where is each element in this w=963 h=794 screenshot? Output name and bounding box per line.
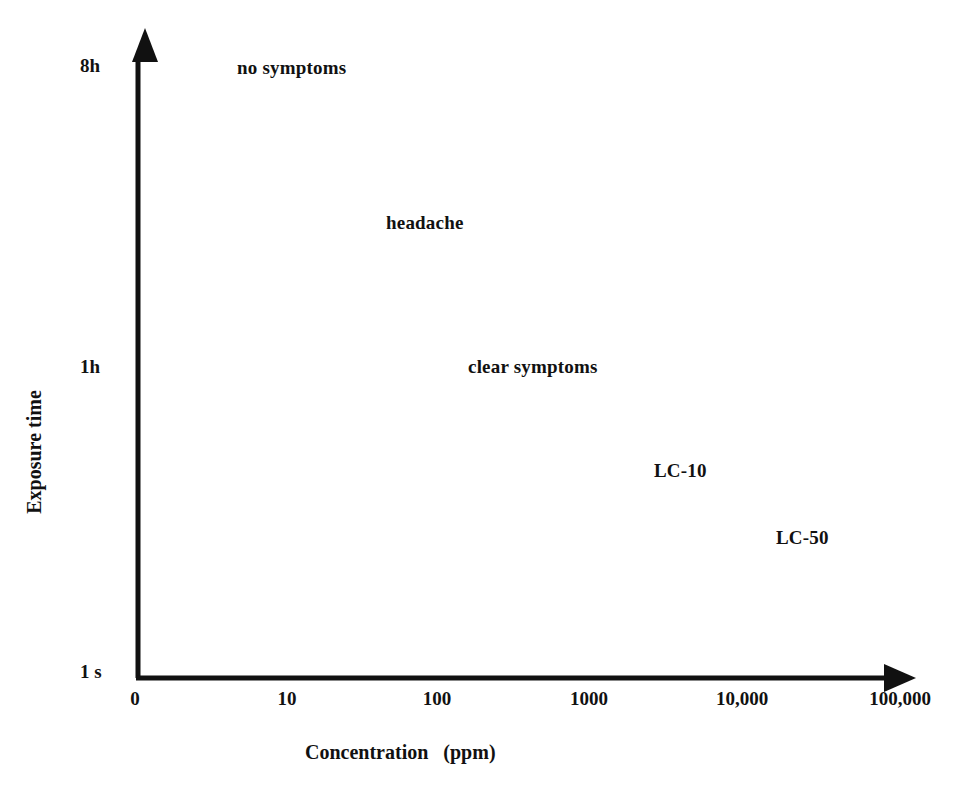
annotation-headache: headache — [386, 212, 464, 234]
x-tick-10000: 10,000 — [716, 688, 768, 710]
y-tick-1s: 1 s — [80, 661, 102, 683]
x-tick-10: 10 — [278, 688, 297, 710]
annotation-no-symptoms: no symptoms — [237, 57, 346, 79]
x-tick-1000: 1000 — [570, 688, 608, 710]
y-tick-8h: 8h — [80, 55, 100, 77]
x-axis-title: Concentration (ppm) — [305, 741, 496, 764]
x-tick-100000: 100,000 — [869, 688, 931, 710]
y-tick-1h: 1h — [80, 356, 100, 378]
y-axis-title: Exposure time — [23, 390, 46, 514]
y-axis-arrowhead-icon — [132, 28, 158, 62]
chart-axes — [0, 0, 963, 794]
annotation-lc10: LC-10 — [654, 460, 707, 482]
x-tick-100: 100 — [423, 688, 452, 710]
x-tick-0: 0 — [130, 688, 140, 710]
exposure-concentration-chart: 8h 1h 1 s 0 10 100 1000 10,000 100,000 C… — [0, 0, 963, 794]
annotation-clear-symptoms: clear symptoms — [468, 356, 598, 378]
annotation-lc50: LC-50 — [776, 527, 829, 549]
